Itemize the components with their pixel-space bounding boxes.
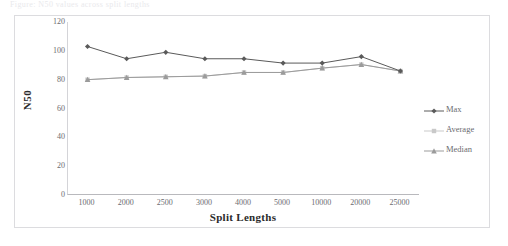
legend-item-max[interactable]: Max — [423, 99, 489, 119]
series-max — [85, 44, 403, 74]
x-axis-tick-labels: 100020002500300040005000100002000025000 — [67, 198, 419, 210]
y-axis-tick-label: 20 — [39, 162, 65, 170]
data-point-marker — [241, 56, 246, 61]
x-axis-tick-label: 1000 — [65, 198, 109, 207]
x-axis-tick-label: 3000 — [182, 198, 226, 207]
data-point-marker — [202, 56, 207, 61]
data-point-marker — [432, 129, 436, 133]
legend-item-label: Median — [445, 144, 472, 154]
data-point-marker — [163, 50, 168, 55]
data-point-marker — [124, 56, 129, 61]
data-point-marker — [431, 108, 436, 113]
x-axis-tick-label: 10000 — [299, 198, 343, 207]
plot-svg — [68, 22, 420, 195]
legend-item-label: Average — [445, 124, 474, 134]
legend-marker-icon — [423, 103, 445, 115]
y-axis-tick-label: 40 — [39, 133, 65, 141]
y-axis-title: N50 — [21, 80, 33, 120]
legend-marker-icon — [423, 123, 445, 135]
x-axis-tick-label: 20000 — [338, 198, 382, 207]
x-axis-tick-label: 2500 — [143, 198, 187, 207]
line-chart: N50 120100806040200 10002000250030004000… — [15, 16, 491, 229]
y-axis-tick-labels: 120100806040200 — [37, 16, 65, 229]
x-axis-tick-label: 4000 — [221, 198, 265, 207]
y-axis-tick-label: 80 — [39, 76, 65, 84]
data-point-marker — [281, 60, 286, 65]
y-axis-tick-label: 100 — [39, 47, 65, 55]
figure-frame: N50 120100806040200 10002000250030004000… — [14, 15, 490, 228]
x-axis-tick-label: 25000 — [377, 198, 421, 207]
legend-item-label: Max — [445, 104, 462, 114]
legend-item-average[interactable]: Average — [423, 119, 489, 139]
y-axis-tick-label: 0 — [39, 191, 65, 199]
x-axis-tick-label: 5000 — [260, 198, 304, 207]
data-point-marker — [320, 60, 325, 65]
x-axis-tick-label: 2000 — [104, 198, 148, 207]
data-point-marker — [85, 44, 90, 49]
x-axis-title: Split Lengths — [67, 211, 419, 223]
legend-marker-icon — [423, 143, 445, 155]
legend-item-median[interactable]: Median — [423, 139, 489, 159]
series-median — [85, 62, 403, 82]
plot-area — [67, 22, 419, 195]
figure-caption-ghost: Figure: N50 values across split lengths — [10, 0, 450, 9]
chart-legend: MaxAverageMedian — [423, 99, 489, 161]
y-axis-tick-label: 120 — [39, 18, 65, 26]
y-axis-tick-label: 60 — [39, 105, 65, 113]
data-point-marker — [359, 54, 364, 59]
